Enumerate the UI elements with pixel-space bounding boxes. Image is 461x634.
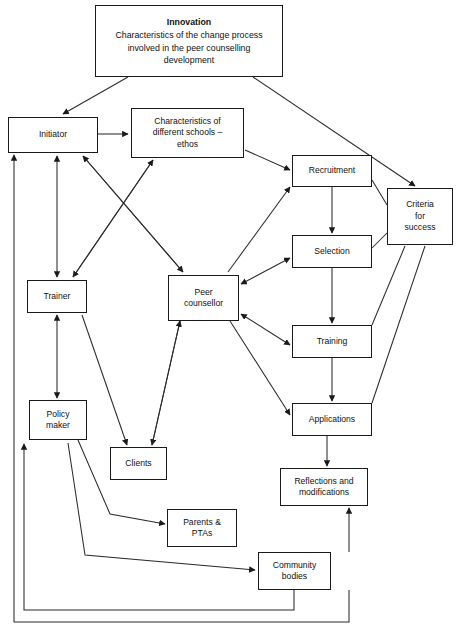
node-criteria-for-success: Criteria for success (387, 188, 453, 245)
edge-trainer-characteristics (73, 160, 153, 277)
node-applications: Applications (292, 403, 372, 436)
edge-initiator-peercounsellor (83, 156, 183, 272)
node-initiator: Initiator (8, 117, 98, 153)
node-label: Reflections and modifications (284, 476, 364, 499)
innovation-body: Characteristics of the change process in… (115, 29, 262, 66)
node-label: Training (296, 336, 368, 347)
node-trainer: Trainer (27, 280, 87, 313)
node-community-bodies: Community bodies (258, 552, 331, 590)
node-label: Policy maker (33, 409, 83, 432)
node-reflections-and-modifications: Reflections and modifications (280, 468, 368, 506)
edge-training-peercounsellor (241, 314, 290, 345)
edge-peercounsellor-initiator (83, 156, 183, 272)
node-peer-counsellor: Peer counsellor (168, 275, 239, 321)
node-training: Training (292, 325, 372, 358)
node-selection: Selection (292, 235, 372, 268)
edge-clients-peercounsellor (152, 321, 180, 445)
innovation-heading: Innovation (167, 16, 211, 28)
node-clients: Clients (110, 447, 167, 480)
node-label: Characteristics of different schools – e… (135, 116, 240, 150)
flowchart-diagram: Innovation Characteristics of the change… (0, 0, 461, 634)
node-innovation: Innovation Characteristics of the change… (95, 5, 283, 77)
node-label: Peer counsellor (172, 287, 235, 310)
edge-characteristics-trainer (73, 160, 153, 277)
node-label: Recruitment (296, 165, 368, 176)
edge-training-criteria (372, 246, 405, 325)
edge-peercounsellor-recruitment (228, 187, 290, 272)
node-label: Community bodies (262, 560, 327, 583)
edge-recruitment-criteria (372, 180, 387, 205)
node-label: Criteria for success (391, 199, 449, 233)
node-label: Applications (296, 414, 368, 425)
edge-characteristics-recruitment (245, 150, 290, 170)
edge-trainer-clients (82, 315, 127, 445)
edge-innovation-initiator (63, 77, 128, 114)
edge-selection-criteria (372, 233, 387, 248)
edge-applications-criteria (372, 246, 425, 403)
node-parents-and-ptas: Parents & PTAs (167, 509, 237, 547)
edge-peercounsellor-clients (152, 321, 180, 445)
edge-selection-peercounsellor (241, 258, 290, 284)
node-recruitment: Recruitment (292, 155, 372, 187)
node-label: Clients (114, 458, 163, 469)
node-label: Initiator (12, 129, 94, 140)
node-policy-maker: Policy maker (29, 400, 87, 440)
node-label: Trainer (31, 291, 83, 302)
node-label: Parents & PTAs (171, 517, 233, 540)
edge-peercounsellor-applications (230, 321, 290, 415)
node-label: Selection (296, 246, 368, 257)
node-characteristics-of-schools: Characteristics of different schools – e… (131, 108, 244, 158)
